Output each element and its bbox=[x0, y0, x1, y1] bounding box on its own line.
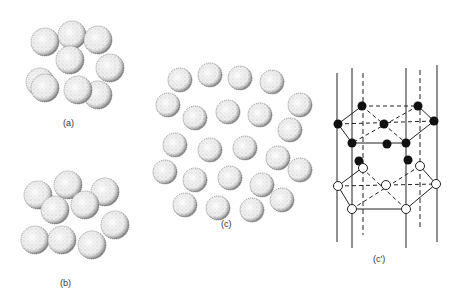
label-b: (b) bbox=[60, 278, 71, 288]
label-c-prime: (c′) bbox=[373, 254, 385, 264]
label-c: (c) bbox=[221, 219, 232, 229]
crystal-packing-diagram bbox=[0, 0, 457, 299]
cluster-b bbox=[21, 171, 129, 259]
cluster-a bbox=[26, 21, 124, 109]
label-a: (a) bbox=[63, 118, 74, 128]
cluster-c bbox=[153, 63, 312, 222]
lattice-c-prime bbox=[337, 65, 437, 248]
open-atoms bbox=[334, 162, 441, 214]
